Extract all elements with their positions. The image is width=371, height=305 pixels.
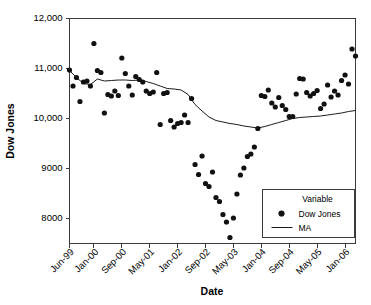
ma-line-series — [70, 71, 356, 129]
data-point — [332, 88, 337, 93]
y-tick-label: 12,000 — [33, 12, 62, 23]
data-point — [339, 78, 344, 83]
x-tick-label: May-03 — [210, 246, 240, 276]
data-point — [70, 83, 75, 88]
x-tick-label: Jan-00 — [72, 246, 100, 274]
x-tick-label: Jun-99 — [48, 246, 76, 274]
data-point — [283, 107, 288, 112]
data-point — [91, 41, 96, 46]
data-point — [116, 93, 121, 98]
data-point — [248, 151, 253, 156]
data-point — [227, 235, 232, 240]
data-point — [325, 82, 330, 87]
y-axis-title: Dow Jones — [4, 103, 16, 159]
legend-label: Dow Jones — [299, 209, 341, 219]
data-point — [126, 83, 131, 88]
x-tick-label: Jan-06 — [323, 246, 351, 274]
x-tick-label: Jan-04 — [239, 246, 267, 274]
data-point — [301, 76, 306, 81]
y-tick-label: 9000 — [41, 162, 62, 173]
data-point — [224, 219, 229, 224]
legend-title: Variable — [302, 194, 333, 204]
y-axis-title-text: Dow Jones — [4, 103, 16, 159]
data-point — [315, 88, 320, 93]
data-point — [353, 53, 358, 58]
data-point — [98, 70, 103, 75]
data-point — [74, 75, 79, 80]
data-point — [119, 55, 124, 60]
data-point — [328, 94, 333, 99]
legend-label: MA — [299, 223, 312, 233]
data-point — [231, 215, 236, 220]
data-point — [189, 96, 194, 101]
data-point — [349, 46, 354, 51]
data-point — [294, 91, 299, 96]
data-point — [241, 165, 246, 170]
data-point — [182, 112, 187, 117]
data-point — [154, 70, 159, 75]
data-point — [217, 199, 222, 204]
dow-jones-chart: 8000900010,00011,00012,000 Jun-99Jan-00S… — [0, 0, 371, 305]
x-tick-label: Sep-02 — [182, 246, 211, 275]
y-axis-ticks: 8000900010,00011,00012,000 — [33, 12, 69, 223]
data-point — [213, 195, 218, 200]
data-point — [77, 99, 82, 104]
y-tick-label: 10,000 — [33, 112, 62, 123]
y-tick-label: 8000 — [41, 212, 62, 223]
data-point — [234, 191, 239, 196]
data-point — [196, 172, 201, 177]
ma-line-path — [70, 71, 356, 129]
data-point — [168, 118, 173, 123]
data-point — [206, 184, 211, 189]
data-point — [112, 88, 117, 93]
legend-marker-dow-jones — [278, 210, 284, 216]
data-point — [252, 144, 257, 149]
data-point — [342, 72, 347, 77]
x-tick-label: May-01 — [126, 246, 156, 276]
data-point — [165, 90, 170, 95]
data-point — [335, 92, 340, 97]
data-point — [199, 153, 204, 158]
chart-canvas: 8000900010,00011,00012,000 Jun-99Jan-00S… — [0, 0, 371, 305]
data-point — [346, 81, 351, 86]
data-point — [273, 104, 278, 109]
x-tick-label: Jan-02 — [156, 246, 184, 274]
data-point — [318, 106, 323, 111]
data-point — [102, 110, 107, 115]
y-tick-label: 11,000 — [34, 62, 62, 73]
data-point — [151, 89, 156, 94]
data-point — [185, 120, 190, 125]
data-point — [67, 67, 72, 72]
data-point — [276, 95, 281, 100]
x-axis-ticks: Jun-99Jan-00Sep-00May-01Jan-02Sep-02May-… — [48, 244, 352, 277]
data-point — [266, 87, 271, 92]
x-axis-title-text: Date — [201, 285, 224, 297]
data-point — [84, 78, 89, 83]
x-tick-label: May-05 — [293, 246, 323, 276]
data-point — [269, 100, 274, 105]
data-point — [280, 103, 285, 108]
data-point — [109, 93, 114, 98]
data-point — [262, 94, 267, 99]
data-point — [220, 212, 225, 217]
chart-legend: VariableDow JonesMA — [263, 190, 355, 238]
data-point — [88, 83, 93, 88]
data-point — [123, 71, 128, 76]
data-point — [130, 92, 135, 97]
data-point — [255, 126, 260, 131]
x-tick-label: Sep-04 — [266, 246, 295, 275]
data-point — [290, 114, 295, 119]
x-axis-title: Date — [201, 285, 224, 297]
data-point — [210, 169, 215, 174]
x-tick-label: Sep-00 — [99, 246, 128, 275]
data-point — [158, 122, 163, 127]
data-point — [192, 162, 197, 167]
data-point — [238, 172, 243, 177]
data-point — [322, 101, 327, 106]
data-point — [140, 79, 145, 84]
data-point — [179, 120, 184, 125]
